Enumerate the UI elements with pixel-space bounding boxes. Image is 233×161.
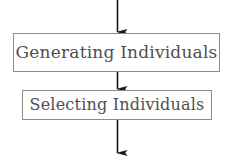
node-selecting-individuals-label: Selecting Individuals xyxy=(30,97,205,113)
arrow-connector-layer xyxy=(0,0,233,161)
flowchart-diagram: Generating Individuals Selecting Individ… xyxy=(0,0,233,161)
node-generating-individuals[interactable]: Generating Individuals xyxy=(13,33,220,72)
node-generating-individuals-label: Generating Individuals xyxy=(16,44,218,61)
node-selecting-individuals[interactable]: Selecting Individuals xyxy=(22,90,212,120)
